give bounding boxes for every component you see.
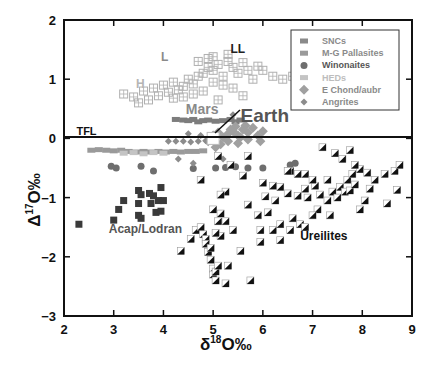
data-point [138, 163, 145, 170]
annotation-l: L [161, 50, 168, 64]
oxygen-isotope-scatter-chart: 23456789 210−1−2−3 LLLHMarsEarthTFLAcap/… [0, 0, 431, 382]
legend-label: E Chond/aubr [322, 85, 381, 95]
legend-marker [300, 75, 308, 80]
data-point [95, 147, 103, 152]
data-point [165, 138, 172, 145]
data-point [199, 148, 207, 153]
series-winonaites [108, 160, 299, 175]
series-earth [207, 132, 219, 144]
data-point [150, 167, 157, 174]
data-point [115, 206, 122, 213]
annotation-mars: Mars [186, 101, 219, 117]
data-point [157, 208, 164, 215]
data-point [160, 197, 167, 204]
data-point [184, 149, 192, 154]
data-point [169, 149, 177, 154]
data-point [195, 138, 202, 145]
annotation-acap-lodran: Acap/Lodran [109, 222, 182, 236]
data-point [157, 184, 164, 191]
legend-label: Angrites [322, 97, 359, 107]
series-ordinary-chondrites-h-l-ll- [120, 50, 302, 107]
x-axis-title: δ18O‰ [200, 334, 252, 354]
data-point [175, 156, 182, 163]
data-point [159, 151, 167, 156]
legend-label: SNCs [322, 36, 346, 46]
annotation-h: H [136, 77, 145, 91]
data-point [192, 149, 200, 154]
legend-label: HEDs [322, 73, 346, 83]
y-tick-label: 0 [49, 131, 56, 146]
data-point [190, 160, 197, 167]
data-point [244, 165, 251, 172]
legend-marker [301, 62, 308, 69]
annotation-ll: LL [231, 42, 246, 56]
data-point [120, 197, 127, 204]
data-point [140, 151, 148, 156]
data-point [180, 138, 187, 145]
y-tick-label: −3 [41, 309, 56, 324]
data-point [212, 165, 219, 172]
legend-label: Winonaites [322, 60, 370, 70]
data-point [259, 165, 266, 172]
data-point [102, 148, 110, 153]
data-point [138, 191, 145, 198]
data-point [292, 160, 299, 167]
y-tick-label: 2 [49, 13, 56, 28]
data-point [110, 148, 118, 153]
legend-marker [300, 39, 308, 44]
series-sncs [172, 117, 245, 124]
x-tick-label: 3 [110, 322, 117, 337]
annotation-earth: Earth [240, 105, 289, 126]
y-axis-title: Δ17O‰ [24, 173, 44, 227]
annotation-tfl: TFL [76, 125, 96, 137]
x-tick-label: 2 [60, 322, 67, 337]
data-point [204, 118, 212, 123]
data-point [212, 119, 220, 124]
data-point [172, 117, 180, 122]
data-point [177, 150, 185, 155]
data-point [138, 215, 145, 222]
data-point [135, 200, 142, 207]
x-tick-label: 8 [359, 322, 366, 337]
data-point [87, 148, 95, 153]
y-tick-label: 1 [49, 72, 56, 87]
annotation-ureilites: Ureilites [300, 229, 348, 243]
x-tick-label: 4 [160, 322, 168, 337]
y-tick-label: −2 [41, 250, 56, 265]
x-tick-label: 6 [259, 322, 266, 337]
data-point [113, 165, 120, 172]
data-point [207, 132, 219, 144]
data-point [120, 151, 128, 156]
data-point [148, 200, 155, 207]
legend-label: M-G Pallasites [322, 48, 384, 58]
data-point [75, 221, 82, 228]
legend-marker [300, 51, 308, 56]
data-point [187, 138, 194, 145]
x-tick-label: 7 [309, 322, 316, 337]
data-point [130, 150, 138, 155]
x-tick-label: 9 [408, 322, 415, 337]
data-point [172, 138, 179, 145]
legend: SNCsM-G PallasitesWinonaitesHEDsE Chond/… [291, 30, 399, 110]
data-point [149, 150, 157, 155]
